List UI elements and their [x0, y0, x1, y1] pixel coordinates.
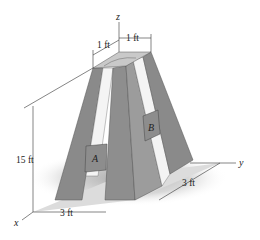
dim-top-x-label: 1 ft: [97, 40, 110, 50]
dim-height-ext: [24, 68, 93, 108]
x-axis-label: x: [13, 217, 19, 228]
x-axis: [22, 212, 33, 220]
dim-height-label: 15 ft: [16, 155, 34, 165]
dim-base-y-label: 3 ft: [182, 178, 195, 188]
block-a-label: A: [91, 153, 99, 164]
dim-top-y-label: 1 ft: [126, 33, 139, 43]
y-axis-label: y: [238, 157, 244, 168]
block-b-label: B: [148, 122, 154, 133]
z-axis-label: z: [115, 11, 120, 22]
dim-base-x-label: 3 ft: [60, 208, 73, 218]
column-diagram: A B 1 ft 1 ft 15 ft 3 ft 3 ft z y x: [0, 0, 260, 240]
